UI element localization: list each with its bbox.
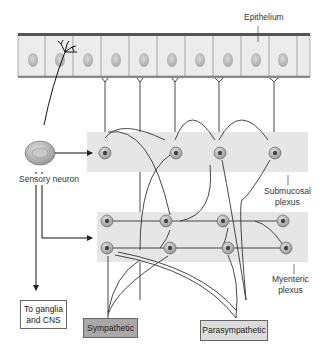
sensory-neuron-cell xyxy=(25,141,55,165)
ganglia-box-line1: To ganglia xyxy=(24,304,63,315)
myenteric-plexus-label: Myenteric plexus xyxy=(272,274,309,296)
epithelium-layer xyxy=(18,33,310,77)
sensory-neuron-label: Sensory neuron xyxy=(18,174,80,185)
ganglia-box-line2: and CNS xyxy=(26,315,61,326)
sympathetic-box: Sympathetic xyxy=(83,318,138,338)
ganglia-cns-box: To ganglia and CNS xyxy=(20,300,67,329)
submucosal-label-line2: plexus xyxy=(264,197,311,208)
submucosal-label-line1: Submucosal xyxy=(264,186,311,197)
parasympathetic-box: Parasympathetic xyxy=(200,320,268,341)
epithelium-label: Epithelium xyxy=(244,12,284,23)
myenteric-label-line2: plexus xyxy=(272,285,309,296)
submucosal-plexus-label: Submucosal plexus xyxy=(264,186,311,208)
myenteric-label-line1: Myenteric xyxy=(272,274,309,285)
